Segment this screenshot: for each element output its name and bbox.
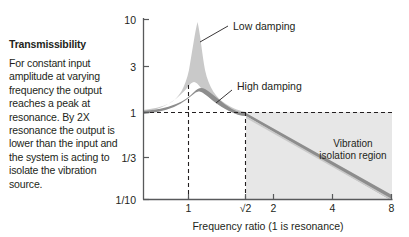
low-damping-label: Low damping bbox=[233, 20, 296, 32]
x-tick-label-2: 2 bbox=[271, 202, 277, 214]
isolation-region-label-line1: Vibration bbox=[333, 138, 372, 149]
transmissibility-chart: 10 3 1 1/3 1/10 1 √2 2 4 8 Frequency rat… bbox=[0, 0, 409, 237]
high-damping-label: High damping bbox=[237, 80, 302, 92]
y-tick-label-3: 3 bbox=[130, 61, 136, 73]
high-damping-leader-line bbox=[216, 90, 232, 103]
isolation-region-label-line2: isolation region bbox=[319, 150, 386, 161]
y-tick-label-one-third: 1/3 bbox=[121, 152, 136, 164]
x-tick-label-1: 1 bbox=[186, 202, 192, 214]
x-tick-label-8: 8 bbox=[389, 202, 395, 214]
x-axis-title: Frequency ratio (1 is resonance) bbox=[192, 220, 343, 232]
y-tick-label-1: 1 bbox=[130, 107, 136, 119]
x-tick-label-4: 4 bbox=[330, 202, 336, 214]
low-damping-leader-line bbox=[200, 26, 228, 42]
transmissibility-figure: Transmissibility For constant input ampl… bbox=[0, 0, 409, 237]
y-tick-label-one-tenth: 1/10 bbox=[116, 194, 137, 206]
x-tick-label-sqrt2: √2 bbox=[240, 202, 252, 214]
y-tick-label-10: 10 bbox=[124, 14, 136, 26]
